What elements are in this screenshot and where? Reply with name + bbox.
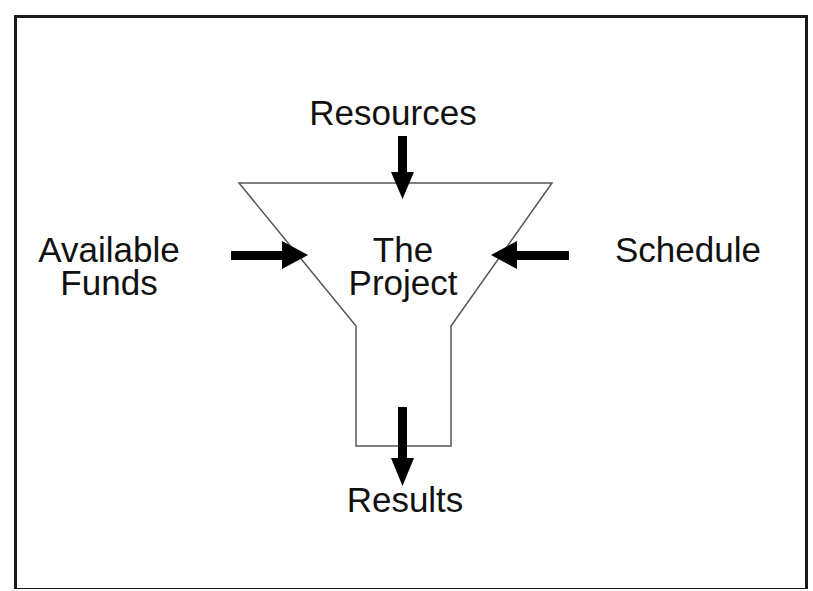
arrow-left-schedule-icon <box>491 241 569 269</box>
arrow-right-funds-icon <box>231 241 308 269</box>
available-funds-line1: Available <box>22 233 196 266</box>
arrow-down-resources-icon <box>391 136 414 199</box>
resources-label: Resources <box>293 96 493 129</box>
available-funds-line2: Funds <box>22 266 196 299</box>
results-label: Results <box>325 483 485 516</box>
schedule-label: Schedule <box>598 233 778 266</box>
the-project-label: The Project <box>330 233 476 299</box>
funnel-shape <box>239 183 552 446</box>
the-project-line2: Project <box>330 266 476 299</box>
the-project-line1: The <box>330 233 476 266</box>
available-funds-label: Available Funds <box>22 233 196 299</box>
